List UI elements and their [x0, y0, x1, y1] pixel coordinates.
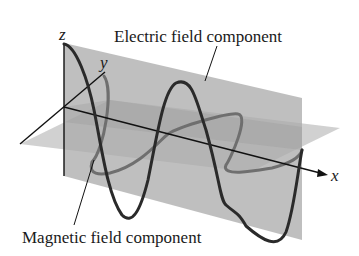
electric-field-label: Electric field component	[114, 27, 282, 46]
x-axis-label: x	[330, 166, 339, 185]
em-wave-diagram: z y x Electric field component Magnetic …	[0, 0, 359, 256]
y-axis-label: y	[98, 53, 108, 72]
x-axis-arrow-icon	[317, 169, 328, 177]
electric-leader	[205, 46, 217, 81]
z-axis-label: z	[58, 25, 66, 44]
magnetic-field-label: Magnetic field component	[22, 228, 202, 247]
